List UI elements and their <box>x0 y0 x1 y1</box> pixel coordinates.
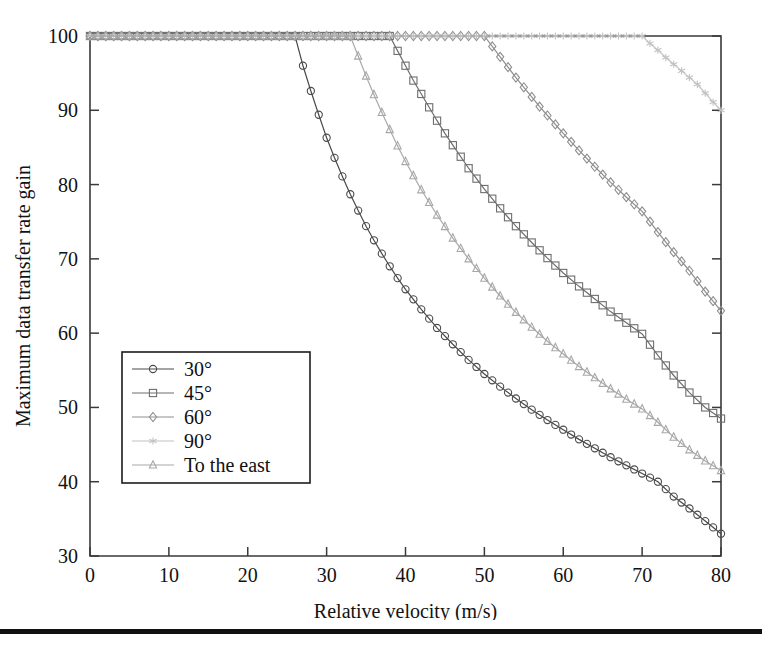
x-tick-label: 80 <box>711 564 731 586</box>
figure-container: 0102030405060708030405060708090100Relati… <box>0 0 762 658</box>
y-tick-label: 60 <box>58 322 78 344</box>
y-tick-label: 100 <box>48 25 78 47</box>
series-line <box>90 36 721 311</box>
x-tick-label: 10 <box>159 564 179 586</box>
y-tick-label: 70 <box>58 248 78 270</box>
y-tick-label: 80 <box>58 174 78 196</box>
x-tick-label: 30 <box>317 564 337 586</box>
y-tick-label: 40 <box>58 471 78 493</box>
x-tick-label: 40 <box>396 564 416 586</box>
x-tick-label: 70 <box>632 564 652 586</box>
x-tick-label: 50 <box>474 564 494 586</box>
x-tick-label: 60 <box>553 564 573 586</box>
legend-label: 45° <box>184 382 212 404</box>
x-axis-title: Relative velocity (m/s) <box>314 600 497 620</box>
legend-label: 30° <box>184 358 212 380</box>
legend-label: 60° <box>184 406 212 428</box>
line-chart: 0102030405060708030405060708090100Relati… <box>0 0 762 620</box>
x-tick-label: 20 <box>238 564 258 586</box>
y-axis-title: Maximum data transfer rate gain <box>12 165 35 427</box>
y-tick-label: 30 <box>58 545 78 567</box>
page-rule-divider <box>0 629 762 634</box>
series-line <box>90 36 721 110</box>
series-4 <box>86 32 724 113</box>
y-tick-label: 90 <box>58 99 78 121</box>
series-3 <box>86 32 724 316</box>
x-tick-label: 0 <box>85 564 95 586</box>
y-tick-label: 50 <box>58 396 78 418</box>
legend-label: To the east <box>184 454 271 476</box>
legend-label: 90° <box>184 430 212 452</box>
